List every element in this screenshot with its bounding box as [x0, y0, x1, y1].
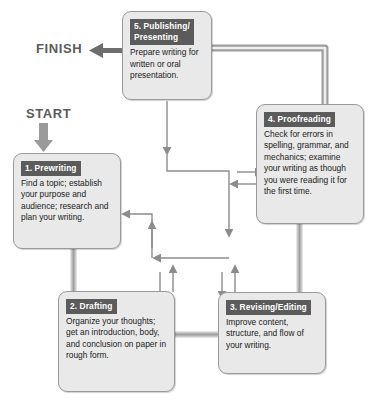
pipe-step5-to-step4	[206, 48, 325, 112]
step-header-revising: 3. Revising/Editing	[226, 300, 311, 315]
step-body-publishing: Prepare writing for written or oral pres…	[123, 45, 211, 86]
step-header-drafting: 2. Drafting	[66, 299, 117, 314]
pipe-step1-to-step2	[70, 242, 77, 298]
pipe-step4-to-step3	[296, 215, 303, 301]
arrow-hub-upper-rail	[167, 155, 229, 230]
step-node-revising[interactable]: 3. Revising/Editing Improve content, str…	[218, 292, 326, 374]
finish-label: FINISH	[36, 41, 82, 56]
step-node-prewriting[interactable]: 1. Prewriting Find a topic; establish yo…	[13, 153, 121, 249]
step-header-proofreading: 4. Proofreading	[264, 112, 335, 127]
arrow-hub-to-step1	[129, 214, 152, 258]
flowchart-canvas: FINISH START 5. Publishing/ Presenting P…	[0, 0, 390, 411]
step-node-proofreading[interactable]: 4. Proofreading Check for errors in spel…	[256, 104, 364, 224]
start-label: START	[26, 106, 71, 121]
step-body-drafting: Organize your thoughts; get an introduct…	[59, 314, 174, 366]
step-node-drafting[interactable]: 2. Drafting Organize your thoughts; get …	[58, 291, 175, 392]
finish-block-arrow	[89, 43, 122, 58]
step-header-publishing: 5. Publishing/ Presenting	[130, 19, 194, 45]
step-header-prewriting: 1. Prewriting	[21, 161, 81, 176]
step-body-prewriting: Find a topic; establish your purpose and…	[14, 176, 120, 228]
step-node-publishing[interactable]: 5. Publishing/ Presenting Prepare writin…	[122, 11, 212, 100]
step-body-proofreading: Check for errors in spelling, grammar, a…	[257, 127, 363, 203]
start-block-arrow	[34, 123, 53, 152]
step-body-revising: Improve content, structure, and flow of …	[219, 315, 325, 356]
